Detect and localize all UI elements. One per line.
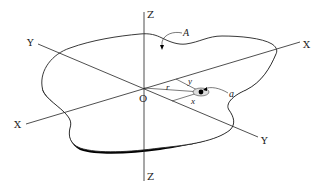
diagram-svg: Z Z X X Y Y O A a r y x [0, 0, 328, 187]
element-dot [199, 90, 204, 95]
y-bottom-label: Y [260, 135, 268, 146]
x-left-label: X [14, 119, 22, 130]
origin-label: O [139, 93, 147, 104]
area-label: A [182, 27, 190, 38]
y-top-label: Y [26, 37, 34, 48]
area-diagram: Z Z X X Y Y O A a r y x [0, 0, 328, 187]
area-outline [42, 34, 277, 152]
x-right-label: X [303, 39, 311, 50]
y-coordinate-label: y [187, 76, 192, 86]
x-coordinate-label: x [190, 96, 195, 106]
radius-label: r [166, 82, 170, 92]
element-label: a [229, 88, 234, 99]
z-top-label: Z [147, 9, 154, 20]
z-bottom-label: Z [147, 171, 154, 182]
